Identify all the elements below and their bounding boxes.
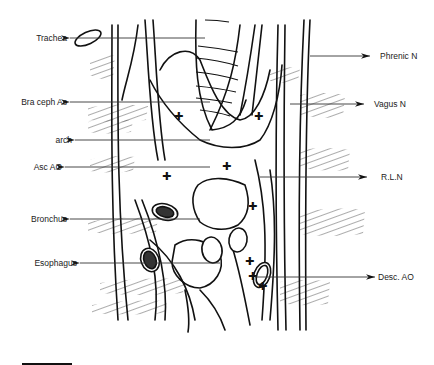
label-arch: arch [55,135,72,145]
label-asc-ao: Asc AO [34,162,62,172]
svg-text:✚: ✚ [174,110,183,123]
svg-text:✚: ✚ [248,270,257,283]
label-desc-ao: Desc. AO [378,272,414,282]
svg-text:✚: ✚ [245,255,254,268]
label-phrenic-n: Phrenic N [380,51,417,61]
label-trachea: Trachea [36,33,67,43]
label-esophagus: Esophagus [34,258,77,268]
svg-text:✚: ✚ [254,110,263,123]
label-bra-ceph-as: Bra ceph As [21,97,67,107]
svg-text:✚: ✚ [162,170,171,183]
svg-text:✚: ✚ [258,280,267,293]
cross-markers: ✚ ✚ ✚ ✚ ✚ ✚ ✚ ✚ [162,110,267,293]
label-bronchus: Bronchus [31,214,67,224]
label-vagus-n: Vagus N [374,99,406,109]
svg-text:✚: ✚ [222,160,231,173]
anatomy-drawing: ✚ ✚ ✚ ✚ ✚ ✚ ✚ ✚ [0,0,434,365]
svg-text:✚: ✚ [248,200,257,213]
label-rln: R.L.N [381,172,403,182]
tissue-hatching [88,55,365,315]
